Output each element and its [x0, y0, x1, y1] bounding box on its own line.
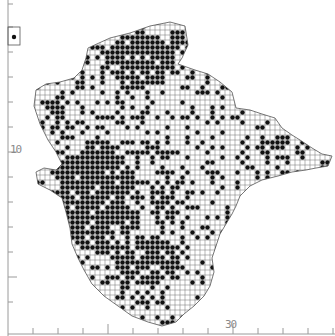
axis-ticks	[8, 0, 335, 336]
distribution-map: 10 30	[0, 0, 335, 336]
inset-box	[8, 27, 20, 45]
y-axis-label: 10	[10, 143, 21, 156]
map-canvas	[0, 0, 335, 336]
x-axis-label: 30	[225, 318, 236, 331]
